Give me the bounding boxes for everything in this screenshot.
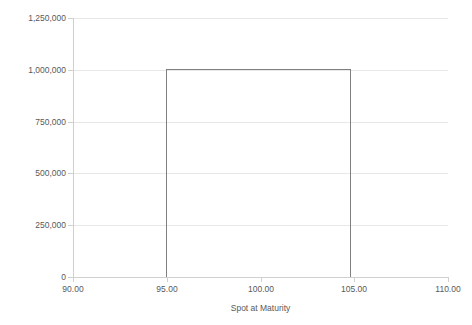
x-tick-mark	[73, 277, 74, 282]
x-tick-mark	[354, 277, 355, 282]
y-tick-mark	[68, 173, 73, 174]
y-tick-mark	[68, 18, 73, 19]
x-tick-label: 90.00	[43, 285, 103, 294]
y-tick-mark	[68, 122, 73, 123]
x-axis-title: Spot at Maturity	[73, 303, 448, 313]
x-tick-label: 110.00	[418, 285, 472, 294]
payout-chart: 0250,000500,000750,0001,000,0001,250,000…	[0, 0, 472, 325]
x-tick-label: 105.00	[324, 285, 384, 294]
y-axis-line	[73, 18, 74, 277]
plot-area	[73, 18, 448, 277]
x-tick-mark	[261, 277, 262, 282]
x-tick-mark	[167, 277, 168, 282]
y-tick-mark	[68, 225, 73, 226]
x-tick-label: 95.00	[137, 285, 197, 294]
payout-step-line	[73, 70, 448, 277]
y-tick-mark	[68, 70, 73, 71]
payout-series	[73, 18, 448, 277]
x-tick-label: 100.00	[231, 285, 291, 294]
x-tick-mark	[448, 277, 449, 282]
